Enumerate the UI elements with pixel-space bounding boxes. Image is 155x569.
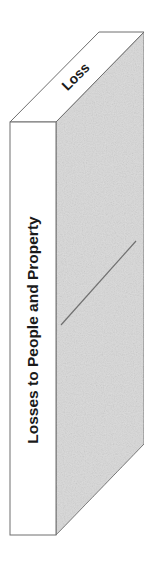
front-face-label: Losses to People and Property — [24, 216, 41, 444]
loss-block-diagram: Loss Losses to People and Property — [0, 0, 155, 569]
